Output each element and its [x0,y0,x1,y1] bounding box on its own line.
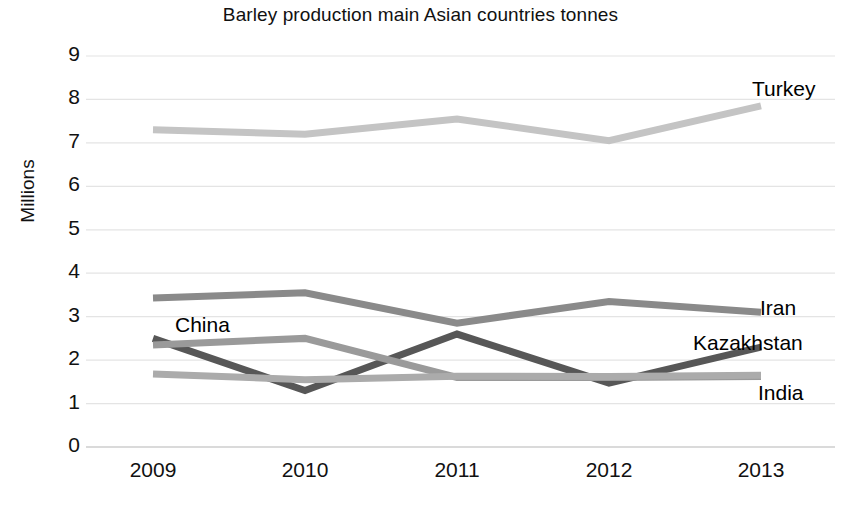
series-line-turkey [153,106,761,141]
series-label-kazakhstan: Kazakhstan [693,331,803,355]
series-label-india: India [758,381,804,405]
series-label-china: China [175,313,230,337]
series-label-iran: Iran [760,296,796,320]
series-label-turkey: Turkey [752,77,815,101]
chart-container: Barley production main Asian countries t… [0,0,841,510]
series-lines [153,106,761,391]
plot-area [0,0,841,510]
series-line-iran [153,293,761,323]
series-line-india [153,374,761,380]
